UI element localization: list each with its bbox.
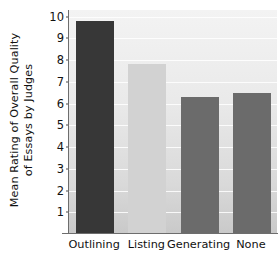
y-tick-label-6: 6: [57, 97, 64, 111]
bar-chart-figure: Mean Rating of Overall Quality of Essays…: [0, 0, 280, 263]
x-axis-category-labels: OutliningListingGeneratingNone: [68, 238, 277, 260]
y-tick-label-1: 1: [57, 205, 64, 219]
x-axis-line: [62, 233, 278, 234]
y-tick-label-10: 10: [49, 10, 64, 24]
bar-generating: [181, 97, 219, 234]
bar-outlining: [76, 21, 114, 234]
y-tick-label-9: 9: [57, 31, 64, 45]
y-axis-title-text: Mean Rating of Overall Quality of Essays…: [8, 33, 37, 208]
y-tick-label-4: 4: [57, 140, 64, 154]
y-axis-tick-labels: 12345678910: [44, 0, 68, 263]
x-category-label-none: None: [236, 238, 265, 251]
y-tick-label-8: 8: [57, 53, 64, 67]
x-category-label-listing: Listing: [128, 238, 165, 251]
plot-area: [68, 10, 277, 234]
bar-none: [233, 93, 271, 234]
x-category-label-generating: Generating: [167, 238, 230, 251]
y-tick-label-7: 7: [57, 75, 64, 89]
y-tick-label-2: 2: [57, 184, 64, 198]
y-tick-label-5: 5: [57, 118, 64, 132]
y-tick-label-3: 3: [57, 162, 64, 176]
bar-series: [69, 10, 277, 234]
y-axis-title: Mean Rating of Overall Quality of Essays…: [0, 0, 44, 240]
x-category-label-outlining: Outlining: [68, 238, 119, 251]
bar-listing: [128, 64, 166, 234]
